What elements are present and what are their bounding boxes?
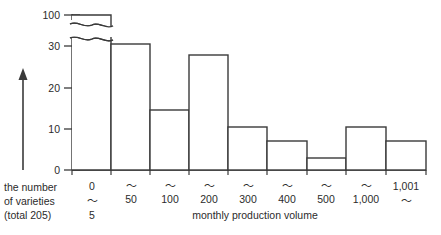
x-tick-label-5: 400 (278, 193, 296, 205)
x-tick-label-0-sub: 5 (89, 209, 95, 221)
x-tick-squiggle-6: ～ (321, 180, 332, 192)
chart-canvas: 100 30 20 10 0 (0, 0, 441, 235)
bar-5 (267, 141, 307, 170)
y-axis-label-line-3: (total 205) (4, 209, 51, 221)
x-tick-label-8: 1,001 (393, 180, 419, 192)
x-tick-label-0: 0 (89, 180, 95, 192)
x-tick-label-1: 50 (125, 193, 137, 205)
histogram-chart: 100 30 20 10 0 (0, 0, 441, 235)
bars-group (72, 15, 426, 170)
x-tick-squiggle-2: ～ (165, 180, 176, 192)
x-tick-label-3: 200 (200, 193, 218, 205)
x-tick-label-4: 300 (239, 193, 257, 205)
bar-4 (228, 127, 267, 170)
y-tick-label-30: 30 (48, 40, 60, 52)
x-tick-label-7: 1,000 (353, 193, 379, 205)
bar-0 (72, 15, 111, 170)
x-tick-squiggle-1: ～ (126, 180, 137, 192)
x-tick-squiggle-3: ～ (204, 180, 215, 192)
y-axis-label: the number of varieties (total 205) (4, 181, 58, 221)
y-tick-label-20: 20 (48, 82, 60, 94)
bar-3 (189, 55, 228, 170)
x-tick-squiggle-5: ～ (282, 180, 293, 192)
up-arrow-icon (19, 68, 28, 170)
bar-8 (386, 141, 426, 170)
x-axis-title: monthly production volume (192, 209, 318, 221)
x-tick-label-2: 100 (161, 193, 179, 205)
x-tick-label-6: 500 (317, 193, 335, 205)
y-axis-label-line-1: the number (4, 181, 58, 193)
y-tick-labels: 100 30 20 10 0 (42, 9, 60, 176)
y-tick-label-0: 0 (54, 164, 60, 176)
x-tick-squiggle-0: ～ (87, 195, 98, 207)
x-tick-squiggle-8: ～ (401, 195, 412, 207)
bar-1 (111, 44, 150, 170)
x-tick-squiggle-7: ～ (361, 180, 372, 192)
y-tick-label-100: 100 (42, 9, 60, 21)
bar-6 (307, 158, 346, 170)
y-axis-label-line-2: of varieties (4, 195, 55, 207)
bar-7 (346, 127, 386, 170)
bar-2 (150, 110, 189, 170)
x-tick-squiggle-4: ～ (243, 180, 254, 192)
x-tick-marks (72, 170, 426, 175)
y-tick-label-10: 10 (48, 123, 60, 135)
